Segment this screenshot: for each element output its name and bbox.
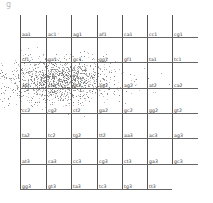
scatter-cloud — [0, 0, 213, 203]
